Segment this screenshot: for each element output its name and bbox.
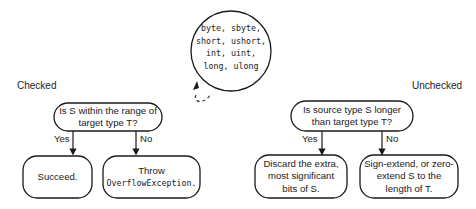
- result-line: Discard the extra,: [263, 158, 338, 171]
- checked-question: Is S within the range of target type T?: [54, 103, 162, 131]
- type-line: short, ushort,: [191, 35, 271, 48]
- question-line: target type T?: [59, 117, 157, 130]
- checked-label: Checked: [17, 80, 56, 91]
- conversion-diagram: byte, sbyte, short, ushort, int, uint, l…: [0, 0, 476, 209]
- result-text: Succeed.: [37, 171, 77, 184]
- result-line: Sign-extend, or zero-: [364, 158, 454, 171]
- result-line: bits of S.: [263, 183, 338, 196]
- result-line: extend S to the: [364, 170, 454, 183]
- unchecked-no-label: No: [386, 133, 398, 144]
- result-text: Throw: [107, 165, 197, 178]
- discard-result: Discard the extra, most significant bits…: [255, 155, 347, 198]
- checked-yes-label: Yes: [54, 133, 70, 144]
- self-loop-arrow: [195, 95, 210, 101]
- sign-extend-result: Sign-extend, or zero- extend S to the le…: [360, 155, 458, 198]
- integral-types-list: byte, sbyte, short, ushort, int, uint, l…: [191, 22, 271, 72]
- unchecked-label: Unchecked: [412, 80, 462, 91]
- checked-no-label: No: [140, 133, 152, 144]
- succeed-result: Succeed.: [23, 156, 92, 198]
- exception-code: OverflowException.: [107, 177, 197, 190]
- type-line: int, uint,: [191, 47, 271, 60]
- unchecked-question: Is source type S longer than target type…: [291, 101, 413, 131]
- question-line: Is S within the range of: [59, 105, 157, 118]
- self-loop-arrowhead: [193, 81, 199, 90]
- question-line: Is source type S longer: [303, 104, 401, 117]
- type-line: long, ulong: [191, 60, 271, 73]
- result-line: most significant: [263, 170, 338, 183]
- question-line: than target type T?: [303, 116, 401, 129]
- type-line: byte, sbyte,: [191, 22, 271, 35]
- throw-result: Throw OverflowException.: [103, 156, 200, 198]
- unchecked-yes-label: Yes: [302, 133, 318, 144]
- result-line: length of T.: [364, 183, 454, 196]
